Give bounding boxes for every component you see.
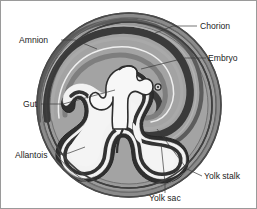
egg-cross-section bbox=[37, 13, 221, 197]
embryo-diagram: Chorion Amnion Embryo Gut Allantois Yolk… bbox=[1, 1, 256, 208]
label-yolk-stalk: Yolk stalk bbox=[204, 171, 241, 181]
label-embryo: Embryo bbox=[208, 53, 238, 63]
label-chorion: Chorion bbox=[200, 21, 230, 31]
label-amnion: Amnion bbox=[19, 35, 48, 45]
embryo-eye-pupil bbox=[157, 86, 159, 88]
label-gut: Gut bbox=[23, 99, 37, 109]
label-allantois: Allantois bbox=[15, 150, 47, 160]
figure-container: Chorion Amnion Embryo Gut Allantois Yolk… bbox=[0, 0, 257, 209]
label-yolk-sac: Yolk sac bbox=[149, 193, 181, 203]
